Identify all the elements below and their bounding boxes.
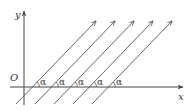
angle-arcs	[37, 82, 115, 87]
parallel-lines	[16, 21, 172, 104]
diagram-canvas: y x O α α α α α	[0, 0, 189, 110]
alpha-label-3: α	[78, 77, 84, 87]
parallel-line-4	[73, 21, 153, 104]
alpha-label-5: α	[116, 77, 122, 87]
parallel-line-2	[35, 21, 115, 104]
alpha-label-1: α	[40, 77, 46, 87]
parallel-line-5	[92, 21, 172, 104]
origin-label: O	[10, 72, 18, 83]
alpha-label-4: α	[97, 77, 103, 87]
parallel-line-1	[16, 21, 96, 104]
alpha-label-2: α	[59, 77, 65, 87]
parallel-line-3	[54, 21, 134, 104]
parallel-lines-diagram: y x O α α α α α	[0, 0, 189, 110]
x-axis-label: x	[178, 91, 184, 102]
y-axis-label: y	[14, 9, 21, 20]
